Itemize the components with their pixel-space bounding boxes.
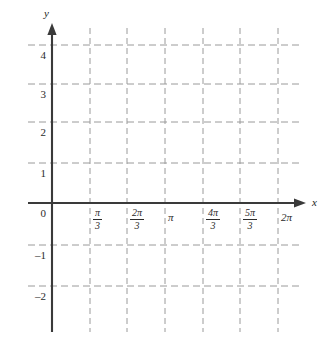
horizontal-gridlines xyxy=(28,45,300,286)
y-tick-label-neg2: –2 xyxy=(20,291,46,302)
x-tick-label-pi: π xyxy=(168,207,174,224)
fraction-numerator: 2π xyxy=(130,207,144,220)
x-tick-label-4pi-over-3: 4π 3 xyxy=(206,207,220,231)
y-tick-label-4: 4 xyxy=(24,50,46,61)
fraction-denominator: 3 xyxy=(206,220,220,232)
x-tick-label-2pi: 2π xyxy=(281,207,292,224)
grid-canvas xyxy=(0,0,330,348)
fraction-numerator: 4π xyxy=(206,207,220,220)
fraction-denominator: 3 xyxy=(93,220,102,232)
fraction-denominator: 3 xyxy=(243,220,257,232)
y-tick-label-3: 3 xyxy=(24,89,46,100)
x-tick-label-pi-over-3: π 3 xyxy=(93,207,102,231)
y-axis-label: y xyxy=(44,8,49,19)
tick-text-pi: π xyxy=(168,207,174,224)
fraction-numerator: 5π xyxy=(243,207,257,220)
tick-text-2pi: 2π xyxy=(281,207,292,224)
x-tick-label-5pi-over-3: 5π 3 xyxy=(243,207,257,231)
y-tick-label-1: 1 xyxy=(24,168,46,179)
x-axis-label: x xyxy=(312,197,317,208)
y-tick-label-2: 2 xyxy=(24,127,46,138)
fraction-2pi-over-3: 2π 3 xyxy=(130,207,144,231)
x-tick-label-2pi-over-3: 2π 3 xyxy=(130,207,144,231)
y-axis-arrowhead xyxy=(47,23,56,35)
y-tick-label-neg1: –1 xyxy=(20,250,46,261)
x-axis-arrowhead xyxy=(294,198,306,207)
fraction-5pi-over-3: 5π 3 xyxy=(243,207,257,231)
fraction-numerator: π xyxy=(93,207,102,220)
fraction-pi-over-3: π 3 xyxy=(93,207,102,231)
coordinate-grid-figure: y x 4 3 2 1 0 –1 –2 π 3 2π 3 π 4π 3 5π 3… xyxy=(0,0,330,348)
y-tick-label-0: 0 xyxy=(24,208,46,219)
fraction-4pi-over-3: 4π 3 xyxy=(206,207,220,231)
fraction-denominator: 3 xyxy=(130,220,144,232)
x-axis xyxy=(28,198,306,207)
